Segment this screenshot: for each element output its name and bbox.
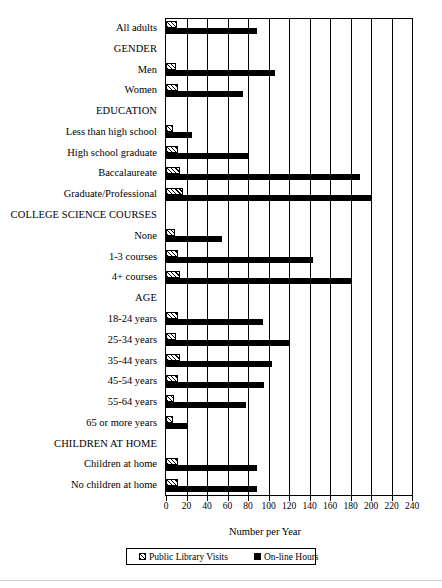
x-axis-tick-labels: 020406080100120140160180200220240 — [0, 501, 442, 515]
bar-public-library-visits — [166, 167, 180, 174]
y-axis-category-label: 55-64 years — [0, 392, 163, 413]
bar-public-library-visits — [166, 375, 178, 382]
bar-online-hours — [166, 257, 313, 263]
chart-row — [166, 435, 412, 456]
y-axis-category-label: None — [0, 226, 163, 247]
bar-online-hours — [166, 382, 264, 388]
bar-online-hours — [166, 195, 371, 201]
chart-row — [166, 102, 412, 123]
chart-row — [166, 40, 412, 61]
bar-public-library-visits — [166, 146, 178, 153]
bar-online-hours — [166, 486, 257, 492]
y-axis-category-label: All adults — [0, 18, 163, 39]
bar-public-library-visits — [166, 458, 178, 465]
bar-public-library-visits — [166, 271, 180, 278]
x-axis-tick-label: 240 — [405, 501, 419, 511]
y-axis-category-label: 35-44 years — [0, 351, 163, 372]
bar-online-hours — [166, 319, 263, 325]
bar-public-library-visits — [166, 229, 175, 236]
x-axis-title-text: Number per Year — [229, 526, 301, 537]
bar-online-hours — [166, 28, 257, 34]
y-axis-section-header: COLLEGE SCIENCE COURSES — [0, 205, 163, 226]
chart-row — [166, 144, 412, 165]
chart-container: All adultsGENDERMenWomenEDUCATIONLess th… — [0, 0, 442, 588]
chart-row — [166, 227, 412, 248]
y-axis-category-label: Graduate/Professional — [0, 184, 163, 205]
bar-public-library-visits — [166, 416, 173, 423]
bar-online-hours — [166, 361, 272, 367]
bar-online-hours — [166, 278, 351, 284]
bar-online-hours — [166, 153, 248, 159]
x-axis-tick-label: 220 — [384, 501, 398, 511]
x-axis-tick-label: 120 — [282, 501, 296, 511]
legend-label-public-library-visits: Public Library Visits — [149, 552, 228, 562]
bar-online-hours — [166, 236, 222, 242]
chart-row — [166, 352, 412, 373]
y-axis-category-label: High school graduate — [0, 143, 163, 164]
y-axis-category-label: 1-3 courses — [0, 247, 163, 268]
chart-row — [166, 414, 412, 435]
y-axis-category-label: Women — [0, 80, 163, 101]
chart-row — [166, 61, 412, 82]
chart-row — [166, 248, 412, 269]
x-axis-tick-label: 100 — [261, 501, 275, 511]
x-axis-tick-label: 0 — [164, 501, 169, 511]
bar-online-hours — [166, 174, 360, 180]
y-axis-section-header: EDUCATION — [0, 101, 163, 122]
bar-online-hours — [166, 70, 275, 76]
x-axis-tick-label: 80 — [243, 501, 253, 511]
chart-row — [166, 164, 412, 185]
y-axis-category-label: 65 or more years — [0, 413, 163, 434]
bar-public-library-visits — [166, 333, 176, 340]
chart-row — [166, 476, 412, 496]
y-axis-category-label: Baccalaureate — [0, 163, 163, 184]
y-axis-category-label: Men — [0, 60, 163, 81]
y-axis-category-label: Less than high school — [0, 122, 163, 143]
y-axis-category-label: 25-34 years — [0, 330, 163, 351]
bar-public-library-visits — [166, 354, 180, 361]
x-axis-tick-label: 60 — [223, 501, 233, 511]
y-axis-category-label: 4+ courses — [0, 267, 163, 288]
bar-online-hours — [166, 465, 257, 471]
x-axis-tick-label: 180 — [343, 501, 357, 511]
chart-row — [166, 455, 412, 476]
x-axis-tick-label: 200 — [364, 501, 378, 511]
y-axis-category-labels: All adultsGENDERMenWomenEDUCATIONLess th… — [0, 18, 163, 496]
bottom-divider — [0, 580, 442, 581]
chart-row — [166, 268, 412, 289]
x-axis-tick-label: 40 — [202, 501, 212, 511]
bar-online-hours — [166, 423, 188, 429]
chart-row — [166, 331, 412, 352]
bar-public-library-visits — [166, 84, 178, 91]
bar-public-library-visits — [166, 63, 176, 70]
chart-legend: Public Library Visits On-line Hours — [126, 548, 316, 565]
x-axis-tick-label: 160 — [323, 501, 337, 511]
chart-row — [166, 81, 412, 102]
bar-public-library-visits — [166, 479, 178, 486]
y-axis-category-label: 18-24 years — [0, 309, 163, 330]
bar-online-hours — [166, 340, 289, 346]
bar-online-hours — [166, 91, 243, 97]
plot-wrapper: All adultsGENDERMenWomenEDUCATIONLess th… — [0, 0, 442, 500]
chart-row — [166, 393, 412, 414]
chart-row — [166, 185, 412, 206]
x-axis-title: Number per Year — [0, 526, 442, 537]
chart-row — [166, 372, 412, 393]
x-axis-tick-label: 20 — [182, 501, 192, 511]
y-axis-section-header: AGE — [0, 288, 163, 309]
y-axis-category-label: Children at home — [0, 454, 163, 475]
bar-public-library-visits — [166, 395, 174, 402]
legend-item-online-hours: On-line Hours — [254, 552, 319, 562]
gridline — [412, 19, 413, 495]
chart-row — [166, 206, 412, 227]
chart-row — [166, 310, 412, 331]
y-axis-category-label: No children at home — [0, 475, 163, 496]
plot-area — [165, 18, 413, 496]
bar-public-library-visits — [166, 250, 178, 257]
legend-swatch-solid-icon — [254, 553, 261, 560]
chart-row — [166, 289, 412, 310]
bar-online-hours — [166, 132, 192, 138]
legend-swatch-hatched-icon — [139, 553, 146, 560]
bar-public-library-visits — [166, 21, 177, 28]
bar-public-library-visits — [166, 188, 183, 195]
